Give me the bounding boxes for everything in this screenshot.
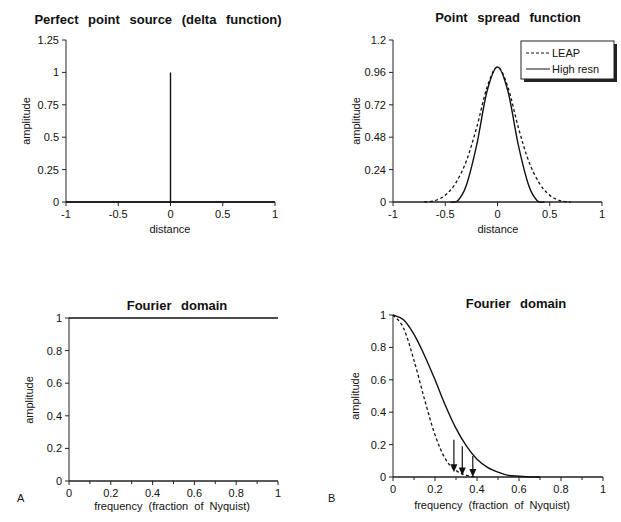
arrow-down-icon [469, 469, 476, 477]
x-tick-label: 0.8 [553, 483, 568, 495]
y-tick-label: 0.2 [371, 439, 386, 451]
legend-label-high-resn: High resn [552, 63, 599, 75]
x-tick-label: 0.5 [542, 208, 557, 220]
y-tick-label: 0 [53, 196, 59, 208]
x-ticks: -1-0.500.51 [388, 202, 605, 220]
x-tick-label: 0.2 [103, 487, 118, 499]
y-tick-label: 0 [56, 475, 62, 487]
x-axis-label: frequency (fraction of Nyquist) [414, 499, 570, 511]
chart-fourier-flat: Fourier domain 00.20.40.60.81 00.20.40.6… [0, 280, 310, 522]
panel-label-a: A [17, 492, 25, 504]
x-ticks: -1-0.500.51 [61, 202, 278, 220]
y-tick-label: 1.25 [38, 34, 59, 46]
x-tick-label: 0.8 [229, 487, 244, 499]
x-axis-label: distance [150, 223, 191, 235]
y-ticks: 00.250.50.7511.25 [38, 34, 66, 208]
x-tick-label: -1 [388, 208, 398, 220]
series-high-resn [393, 315, 540, 477]
series-leap [393, 315, 477, 477]
y-axis-label: amplitude [23, 376, 35, 424]
x-tick-label: 0.6 [187, 487, 202, 499]
y-tick-label: 0.25 [38, 164, 59, 176]
x-ticks: 00.20.40.60.81 [390, 477, 606, 495]
x-tick-label: 1 [275, 487, 281, 499]
y-tick-label: 1 [380, 309, 386, 321]
x-tick-label: 1 [600, 483, 606, 495]
x-tick-label: 0.4 [145, 487, 160, 499]
y-tick-label: 0.6 [371, 374, 386, 386]
y-tick-label: 1 [53, 66, 59, 78]
frequency-arrows [450, 440, 476, 477]
y-tick-label: 0.6 [47, 377, 62, 389]
chart-delta-function: Perfect point source (delta function) 00… [0, 0, 310, 250]
x-ticks: 00.20.40.60.81 [66, 481, 281, 499]
x-axis-label: frequency (fraction of Nyquist) [94, 500, 250, 512]
y-tick-label: 0.4 [371, 406, 386, 418]
y-axis-label: amplitude [20, 97, 32, 145]
series-high-resn [450, 67, 544, 202]
y-tick-label: 0.75 [38, 99, 59, 111]
y-tick-label: 1 [56, 312, 62, 324]
x-tick-label: 1 [272, 208, 278, 220]
y-tick-label: 0.8 [47, 345, 62, 357]
y-tick-label: 0.24 [365, 164, 386, 176]
y-tick-label: 0 [380, 196, 386, 208]
x-tick-label: 0.6 [511, 483, 526, 495]
y-axis-label: amplitude [349, 372, 361, 420]
y-tick-label: 0.8 [371, 341, 386, 353]
y-ticks: 00.20.40.60.81 [47, 312, 69, 487]
panel-label-b: B [328, 492, 335, 504]
legend: LEAP High resn [521, 41, 617, 82]
series-leap [424, 67, 570, 202]
x-tick-label: 0 [167, 208, 173, 220]
x-tick-label: 0 [390, 483, 396, 495]
x-tick-label: 0.4 [469, 483, 484, 495]
y-ticks: 00.20.40.60.81 [371, 309, 393, 483]
series-delta [66, 72, 275, 202]
y-tick-label: 0 [380, 471, 386, 483]
series-group [424, 67, 570, 202]
series-group [66, 72, 275, 202]
arrow-down-icon [459, 467, 466, 475]
x-tick-label: 1 [599, 208, 605, 220]
x-tick-label: 0 [494, 208, 500, 220]
y-tick-label: 0.4 [47, 410, 62, 422]
y-tick-label: 0.2 [47, 442, 62, 454]
chart-title: Point spread function [435, 10, 581, 25]
y-tick-label: 0.96 [365, 66, 386, 78]
chart-fourier-comparison: Fourier domain 00.20.40.60.81 00.20.40.6… [310, 280, 621, 522]
x-tick-label: -1 [61, 208, 71, 220]
y-tick-label: 1.2 [371, 34, 386, 46]
y-ticks: 00.240.480.720.961.2 [365, 34, 393, 208]
x-axis-label: distance [478, 223, 519, 235]
chart-point-spread-function: Point spread function 00.240.480.720.961… [310, 0, 621, 250]
series-group [393, 315, 540, 477]
chart-title: Perfect point source (delta function) [34, 12, 281, 27]
y-axis-label: amplitude [350, 97, 362, 145]
x-tick-label: 0.5 [215, 208, 230, 220]
x-tick-label: -0.5 [109, 208, 128, 220]
y-tick-label: 0.48 [365, 131, 386, 143]
y-tick-label: 0.72 [365, 99, 386, 111]
chart-title: Fourier domain [466, 296, 567, 311]
legend-label-leap: LEAP [552, 47, 580, 59]
y-tick-label: 0.5 [44, 131, 59, 143]
x-tick-label: -0.5 [436, 208, 455, 220]
x-tick-label: 0.2 [427, 483, 442, 495]
chart-title: Fourier domain [127, 298, 228, 313]
x-tick-label: 0 [66, 487, 72, 499]
